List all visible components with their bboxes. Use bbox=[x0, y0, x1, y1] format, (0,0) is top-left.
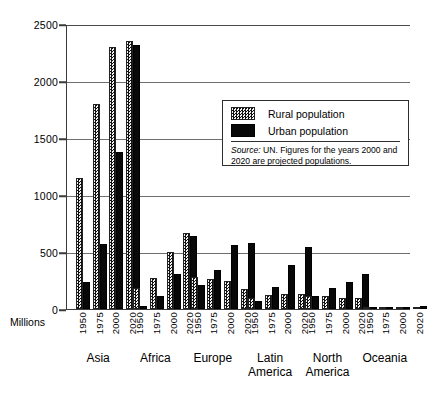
year-label-north-america-1950: 1950 bbox=[306, 312, 317, 334]
bar-pair-1975 bbox=[93, 25, 107, 309]
bars-container bbox=[76, 25, 122, 309]
bar-group-asia bbox=[76, 25, 122, 309]
year-label-europe-2000: 2000 bbox=[225, 312, 236, 334]
bar-rural-north-america-2000 bbox=[339, 298, 346, 309]
bar-rural-latin-america-2000 bbox=[281, 294, 288, 309]
year-label-oceania-2000: 2000 bbox=[397, 312, 408, 334]
y-tick-mark-500 bbox=[59, 252, 66, 254]
y-tick-mark-0 bbox=[59, 309, 66, 311]
bar-rural-europe-1975 bbox=[207, 279, 214, 309]
bar-pair-2000 bbox=[396, 25, 410, 309]
bar-urban-africa-1975 bbox=[157, 296, 164, 309]
year-label-north-america-2000: 2000 bbox=[340, 312, 351, 334]
bar-group-north-america bbox=[305, 25, 351, 309]
y-tick-label-2000: 2000 bbox=[0, 76, 58, 88]
bars-container bbox=[305, 25, 351, 309]
year-label-latin-america-1950: 1950 bbox=[249, 312, 260, 334]
bar-urban-asia-1975 bbox=[100, 244, 107, 309]
bar-urban-africa-2000 bbox=[174, 274, 181, 309]
bar-urban-europe-1975 bbox=[214, 270, 221, 309]
bar-pair-2000 bbox=[281, 25, 295, 309]
urban-swatch-icon bbox=[231, 124, 255, 137]
bar-pair-2000 bbox=[167, 25, 181, 309]
population-bar-chart: 05001000150020002500 Rural population Ur… bbox=[0, 0, 433, 399]
bar-pair-1975 bbox=[379, 25, 393, 309]
y-tick-label-2500: 2500 bbox=[0, 19, 58, 31]
plot-area bbox=[66, 25, 410, 310]
legend-label-rural: Rural population bbox=[268, 108, 344, 120]
bars-container bbox=[191, 25, 237, 309]
bar-rural-europe-1950 bbox=[191, 277, 198, 309]
bar-rural-oceania-2020 bbox=[413, 307, 420, 309]
y-tick-label-1500: 1500 bbox=[0, 133, 58, 145]
y-tick-mark-1500 bbox=[59, 138, 66, 140]
bar-rural-oceania-2000 bbox=[396, 307, 403, 309]
bars-container bbox=[133, 25, 179, 309]
year-label-oceania-2020: 2020 bbox=[414, 312, 425, 334]
bar-rural-north-america-2020 bbox=[355, 298, 362, 309]
bar-pair-1950 bbox=[305, 25, 319, 309]
source-prefix: Source: bbox=[231, 145, 261, 155]
year-label-asia-2000: 2000 bbox=[110, 312, 121, 334]
bar-rural-asia-1975 bbox=[93, 104, 100, 309]
bar-pair-2000 bbox=[224, 25, 238, 309]
year-label-latin-america-1975: 1975 bbox=[266, 312, 277, 334]
bar-urban-north-america-2000 bbox=[346, 282, 353, 309]
bar-urban-europe-1950 bbox=[198, 285, 205, 309]
y-tick-mark-2000 bbox=[59, 81, 66, 83]
year-tick-labels: 1950197520002020195019752000202019501975… bbox=[0, 312, 433, 356]
rural-swatch-icon bbox=[231, 107, 255, 120]
bar-rural-oceania-1950 bbox=[363, 307, 370, 309]
bar-rural-north-america-1975 bbox=[322, 296, 329, 309]
legend: Rural population Urban population Source… bbox=[222, 100, 409, 166]
year-label-oceania-1975: 1975 bbox=[380, 312, 391, 334]
bar-urban-europe-2000 bbox=[231, 245, 238, 309]
bar-pair-1975 bbox=[322, 25, 336, 309]
bar-rural-africa-2020 bbox=[183, 233, 190, 309]
legend-divider bbox=[231, 141, 400, 142]
year-label-europe-1975: 1975 bbox=[208, 312, 219, 334]
bar-rural-oceania-1975 bbox=[379, 307, 386, 309]
bar-urban-oceania-1975 bbox=[386, 307, 393, 309]
year-label-oceania-1950: 1950 bbox=[364, 312, 375, 334]
bar-rural-africa-2000 bbox=[167, 252, 174, 309]
bar-urban-north-america-1950 bbox=[312, 296, 319, 309]
bar-pair-1950 bbox=[76, 25, 90, 309]
bar-pair-1950 bbox=[191, 25, 205, 309]
source-note: Source: UN. Figures for the years 2000 a… bbox=[231, 145, 400, 166]
year-label-north-america-1975: 1975 bbox=[323, 312, 334, 334]
bar-urban-oceania-2020 bbox=[420, 306, 427, 309]
bar-urban-latin-america-1975 bbox=[272, 287, 279, 309]
bar-group-europe bbox=[191, 25, 237, 309]
year-label-europe-1950: 1950 bbox=[192, 312, 203, 334]
y-tick-label-500: 500 bbox=[0, 247, 58, 259]
year-label-africa-2000: 2000 bbox=[168, 312, 179, 334]
bar-pair-1950 bbox=[133, 25, 147, 309]
bar-urban-north-america-1975 bbox=[329, 288, 336, 309]
bars-container bbox=[363, 25, 409, 309]
legend-row-rural: Rural population bbox=[231, 107, 400, 120]
bar-rural-africa-1975 bbox=[150, 278, 157, 309]
y-tick-mark-1000 bbox=[59, 195, 66, 197]
year-label-africa-1950: 1950 bbox=[134, 312, 145, 334]
y-tick-mark-2500 bbox=[59, 24, 66, 26]
bar-group-africa bbox=[133, 25, 179, 309]
year-label-latin-america-2000: 2000 bbox=[282, 312, 293, 334]
bar-rural-asia-2020 bbox=[126, 41, 133, 309]
legend-label-urban: Urban population bbox=[268, 125, 348, 137]
bar-rural-north-america-1950 bbox=[305, 296, 312, 309]
region-label-oceania: Oceania bbox=[351, 352, 419, 366]
bar-rural-latin-america-1950 bbox=[248, 298, 255, 309]
legend-row-urban: Urban population bbox=[231, 124, 400, 137]
bar-rural-latin-america-2020 bbox=[298, 294, 305, 309]
bar-pair-1975 bbox=[150, 25, 164, 309]
bar-rural-latin-america-1975 bbox=[265, 295, 272, 309]
bar-rural-asia-1950 bbox=[76, 178, 83, 309]
bar-rural-africa-1950 bbox=[133, 288, 140, 309]
region-labels: AsiaAfricaEuropeLatin AmericaNorth Ameri… bbox=[0, 352, 433, 396]
bar-pair-2000 bbox=[339, 25, 353, 309]
bar-urban-oceania-2000 bbox=[403, 307, 410, 309]
bar-group-latin-america bbox=[248, 25, 294, 309]
bar-rural-europe-2000 bbox=[224, 281, 231, 310]
year-label-asia-1975: 1975 bbox=[94, 312, 105, 334]
